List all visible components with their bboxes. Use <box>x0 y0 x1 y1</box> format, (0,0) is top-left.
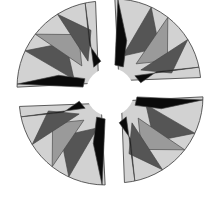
center-circle <box>86 68 134 116</box>
pinwheel-svg <box>0 0 216 204</box>
pinwheel-graphic <box>0 0 216 204</box>
